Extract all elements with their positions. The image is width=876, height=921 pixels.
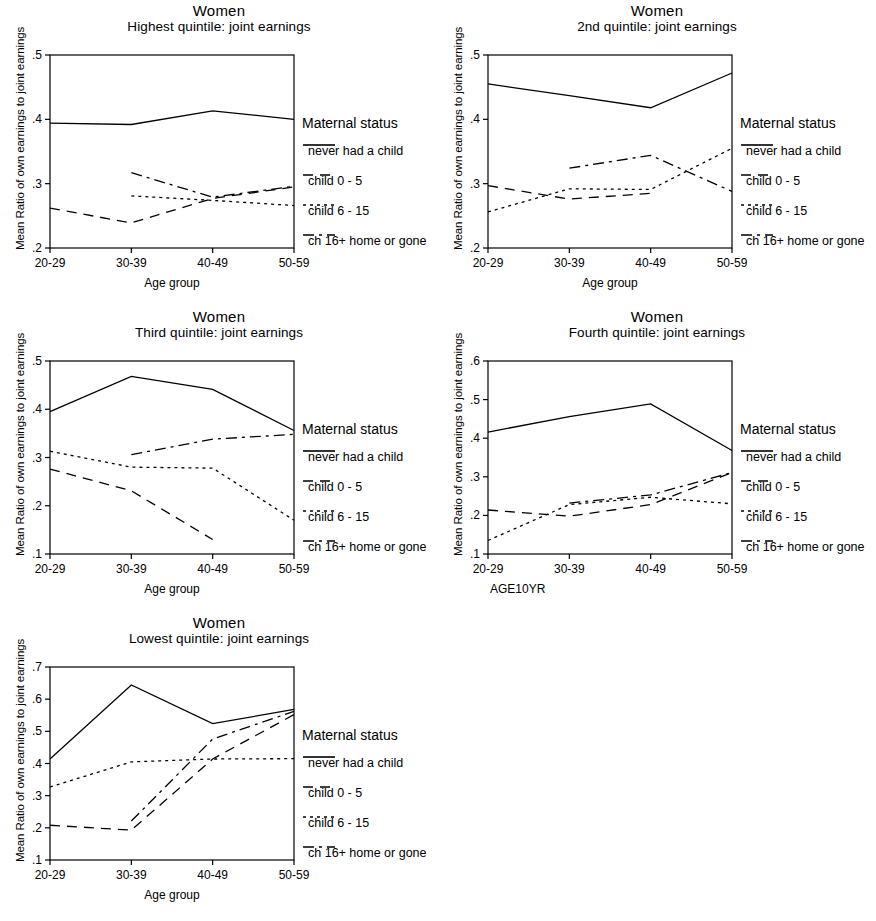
chart-panel-third-quintile: WomenThird quintile: joint earningsMean … [0, 306, 438, 612]
x-axis-tick-label: 20-29 [473, 256, 504, 270]
y-axis-tick-label: .5 [470, 393, 480, 407]
legend-item[interactable]: child 6 - 15 [302, 805, 398, 835]
plot-frame [50, 55, 294, 248]
legend-item[interactable]: never had a child [302, 745, 398, 775]
plot-frame [50, 667, 294, 860]
y-axis-tick-label: .5 [470, 48, 480, 62]
x-axis-tick-label: 40-49 [197, 562, 228, 576]
chart-panel-highest-quintile: WomenHighest quintile: joint earningsMea… [0, 0, 438, 306]
series-line-solid [50, 685, 294, 759]
series-line-dash-dot [569, 155, 732, 191]
legend-key-dash-dot-icon [302, 533, 336, 539]
legend-key-dotted-icon [302, 809, 336, 815]
legend-item[interactable]: child 0 - 5 [302, 775, 398, 805]
legend-key-solid-icon [740, 443, 774, 449]
legend-label: child 0 - 5 [308, 480, 362, 494]
x-axis-tick-label: 20-29 [473, 562, 504, 576]
chart-panel-lowest-quintile: WomenLowest quintile: joint earningsMean… [0, 612, 438, 918]
legend-label: child 0 - 5 [746, 174, 800, 188]
y-axis-tick-label: .7 [32, 660, 42, 674]
series-line-solid [488, 73, 732, 108]
legend-item[interactable]: ch 16+ home or gone [302, 223, 398, 253]
legend-key-dashed-icon [302, 167, 336, 173]
y-axis-tick-label: .3 [32, 177, 42, 191]
x-axis-tick-label: 30-39 [554, 256, 585, 270]
legend-label: ch 16+ home or gone [746, 234, 865, 248]
legend-label: child 6 - 15 [746, 510, 807, 524]
series-line-dotted [50, 451, 294, 520]
series-line-dashed [50, 187, 294, 223]
plot-frame [488, 55, 732, 248]
legend-item[interactable]: never had a child [302, 439, 398, 469]
series-line-solid [50, 376, 294, 430]
legend-item[interactable]: ch 16+ home or gone [740, 223, 836, 253]
legend: Maternal statusnever had a childchild 0 … [302, 115, 398, 253]
chart-panel-fourth-quintile: WomenFourth quintile: joint earningsMean… [438, 306, 876, 612]
legend-label: child 6 - 15 [308, 510, 369, 524]
series-line-dashed [488, 473, 732, 517]
legend-key-dash-dot-icon [740, 533, 774, 539]
legend-label: ch 16+ home or gone [746, 540, 865, 554]
y-axis-tick-label: .1 [32, 547, 42, 561]
x-axis-tick-label: 40-49 [197, 256, 228, 270]
legend-label: child 6 - 15 [308, 816, 369, 830]
y-axis-tick-label: .2 [32, 821, 42, 835]
x-axis-tick-label: 20-29 [35, 256, 66, 270]
series-line-solid [488, 404, 732, 451]
x-axis-tick-label: 30-39 [116, 868, 147, 882]
legend-item[interactable]: ch 16+ home or gone [302, 835, 398, 865]
legend-key-solid-icon [302, 749, 336, 755]
x-axis-tick-label: 20-29 [35, 562, 66, 576]
legend-item[interactable]: never had a child [302, 133, 398, 163]
x-axis-label: Age group [570, 276, 650, 290]
legend-item[interactable]: child 0 - 5 [302, 163, 398, 193]
legend-label: ch 16+ home or gone [308, 846, 427, 860]
legend-title: Maternal status [302, 421, 398, 437]
x-axis-tick-label: 50-59 [717, 256, 748, 270]
legend: Maternal statusnever had a childchild 0 … [302, 421, 398, 559]
legend-key-dotted-icon [302, 197, 336, 203]
y-axis-tick-label: .3 [32, 451, 42, 465]
legend-item[interactable]: child 0 - 5 [740, 469, 836, 499]
legend-item[interactable]: ch 16+ home or gone [740, 529, 836, 559]
series-line-solid [50, 111, 294, 125]
series-line-dotted [50, 759, 294, 787]
legend-item[interactable]: child 0 - 5 [302, 469, 398, 499]
y-axis-tick-label: .4 [32, 757, 42, 771]
y-axis-tick-label: .1 [470, 547, 480, 561]
legend: Maternal statusnever had a childchild 0 … [302, 727, 398, 865]
y-axis-tick-label: .4 [470, 112, 480, 126]
legend-item[interactable]: child 6 - 15 [302, 193, 398, 223]
legend-title: Maternal status [740, 115, 836, 131]
legend-item[interactable]: ch 16+ home or gone [302, 529, 398, 559]
y-axis-tick-label: .5 [32, 724, 42, 738]
x-axis-label: Age group [132, 888, 212, 902]
legend-item[interactable]: child 6 - 15 [740, 193, 836, 223]
series-line-dotted [488, 497, 732, 540]
legend-label: child 0 - 5 [746, 480, 800, 494]
x-axis-tick-label: 20-29 [35, 868, 66, 882]
series-line-dash-dot [569, 473, 732, 503]
legend-key-dash-dot-icon [302, 227, 336, 233]
legend-item[interactable]: child 6 - 15 [740, 499, 836, 529]
x-axis-label: Age group [132, 276, 212, 290]
x-axis-tick-label: 50-59 [717, 562, 748, 576]
legend-key-solid-icon [740, 137, 774, 143]
y-axis-tick-label: .6 [32, 692, 42, 706]
legend-item[interactable]: child 6 - 15 [302, 499, 398, 529]
legend-key-dash-dot-icon [302, 839, 336, 845]
y-axis-tick-label: .5 [32, 354, 42, 368]
legend-title: Maternal status [302, 727, 398, 743]
legend-key-solid-icon [302, 137, 336, 143]
figure-canvas: WomenHighest quintile: joint earningsMea… [0, 0, 876, 921]
legend-item[interactable]: child 0 - 5 [740, 163, 836, 193]
legend: Maternal statusnever had a childchild 0 … [740, 115, 836, 253]
legend-label: child 6 - 15 [746, 204, 807, 218]
y-axis-tick-label: .2 [32, 241, 42, 255]
chart-panel-second-quintile: Women2nd quintile: joint earningsMean Ra… [438, 0, 876, 306]
legend-label: ch 16+ home or gone [308, 540, 427, 554]
series-line-dashed [488, 186, 651, 200]
legend-item[interactable]: never had a child [740, 439, 836, 469]
x-axis-tick-label: 50-59 [279, 256, 310, 270]
legend-item[interactable]: never had a child [740, 133, 836, 163]
